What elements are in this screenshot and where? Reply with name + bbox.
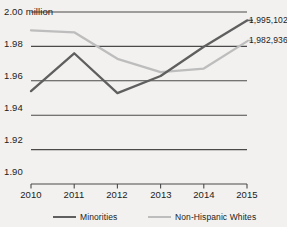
legend-item-minorities: Minorities [53, 212, 117, 222]
x-axis-label-2013: 2013 [143, 190, 179, 200]
legend-swatch-whites-icon [148, 216, 171, 219]
legend-label-minorities: Minorities [80, 212, 117, 222]
x-axis-label-2014: 2014 [186, 190, 222, 200]
line-chart: 2.00 million 1.98 1.96 1.94 1.92 1.90 [0, 0, 287, 227]
x-axis-label-2012: 2012 [99, 190, 135, 200]
y-axis-label-1-96: 1.96 [4, 71, 23, 81]
x-axis-label-2010: 2010 [13, 190, 49, 200]
legend-item-non-hispanic-whites: Non-Hispanic Whites [148, 212, 256, 222]
x-axis-label-2011: 2011 [56, 190, 92, 200]
value-label-minorities-2015: 1,995,102 [249, 15, 287, 25]
x-axis-label-2015: 2015 [229, 190, 265, 200]
y-axis-label-2-00: 2.00 million [4, 7, 53, 17]
chart-legend: Minorities Non-Hispanic Whites [0, 210, 287, 227]
y-axis-label-1-92: 1.92 [4, 135, 23, 145]
y-axis-label-1-94: 1.94 [4, 103, 23, 113]
value-label-whites-2015: 1,982,936 [249, 35, 287, 45]
x-axis-ticks [31, 184, 247, 189]
plot-area [0, 0, 287, 200]
y-axis-label-1-90: 1.90 [4, 167, 23, 177]
gridlines [31, 12, 247, 184]
legend-label-non-hispanic-whites: Non-Hispanic Whites [175, 212, 256, 222]
y-axis-label-1-98: 1.98 [4, 39, 23, 49]
series-line-non-hispanic-whites [31, 30, 247, 72]
legend-swatch-minorities-icon [53, 216, 76, 219]
